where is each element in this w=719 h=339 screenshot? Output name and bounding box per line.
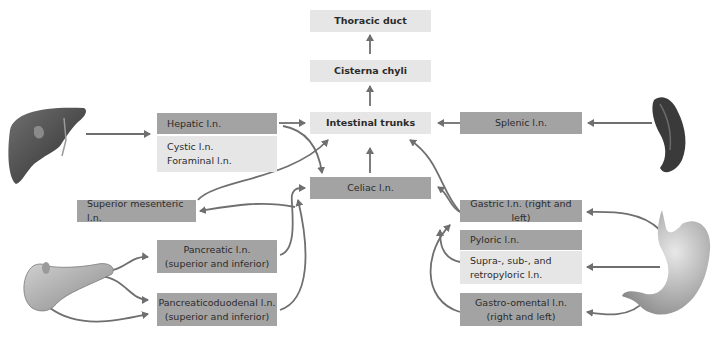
cystic-foraminal-node: Cystic l.n. Foraminal l.n. [157, 136, 277, 172]
cisterna-chyli-node: Cisterna chyli [310, 60, 431, 82]
intestinal-trunks-label: Intestinal trunks [326, 116, 415, 130]
intestinal-trunks-node: Intestinal trunks [310, 112, 431, 134]
pyloric-node: Pyloric l.n. [460, 230, 582, 250]
suprapyloric-node: Supra-, sub-, and retropyloric l.n. [460, 251, 582, 284]
pyloric-label: Pyloric l.n. [470, 233, 519, 247]
gastroomental-label-1: Gastro-omental l.n. [475, 296, 567, 310]
pancreatic-node: Pancreatic l.n. (superior and inferior) [157, 240, 277, 273]
superior-mesenteric-label: Superior mesenteric l.n. [87, 197, 196, 225]
gastroomental-node: Gastro-omental l.n. (right and left) [460, 293, 582, 326]
hepatic-node: Hepatic l.n. [157, 113, 277, 134]
pancreas-illustration [18, 252, 118, 316]
foraminal-label: Foraminal l.n. [167, 154, 232, 168]
celiac-node: Celiac l.n. [310, 177, 431, 199]
gastroomental-label-2: (right and left) [486, 310, 555, 324]
celiac-label: Celiac l.n. [347, 181, 394, 195]
suprapyloric-label-2: retropyloric l.n. [470, 268, 542, 282]
splenic-node: Splenic l.n. [460, 112, 582, 134]
gastric-node: Gastric l.n. (right and left) [460, 200, 582, 222]
pancreaticoduodenal-label-1: Pancreaticoduodenal l.n. [158, 296, 275, 310]
superior-mesenteric-node: Superior mesenteric l.n. [77, 200, 196, 222]
cisterna-chyli-label: Cisterna chyli [334, 64, 407, 78]
hepatic-label: Hepatic l.n. [167, 117, 221, 131]
spleen-illustration [648, 94, 692, 178]
liver-illustration [4, 100, 88, 190]
thoracic-duct-label: Thoracic duct [334, 14, 406, 28]
gastric-label: Gastric l.n. (right and left) [460, 197, 582, 225]
cystic-label: Cystic l.n. [167, 140, 214, 154]
pancreatic-label-1: Pancreatic l.n. [183, 243, 250, 257]
thoracic-duct-node: Thoracic duct [310, 10, 431, 32]
stomach-illustration [622, 210, 718, 328]
splenic-label: Splenic l.n. [495, 116, 547, 130]
pancreaticoduodenal-label-2: (superior and inferior) [165, 310, 270, 324]
pancreatic-label-2: (superior and inferior) [165, 257, 270, 271]
pancreaticoduodenal-node: Pancreaticoduodenal l.n. (superior and i… [157, 293, 277, 326]
suprapyloric-label-1: Supra-, sub-, and [470, 254, 552, 268]
